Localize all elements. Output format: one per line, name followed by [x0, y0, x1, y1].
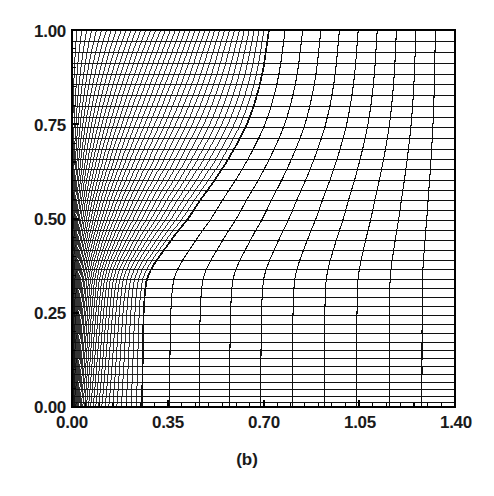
x-tick-label-3: 1.05 [325, 413, 395, 433]
mesh-lines [72, 30, 455, 407]
x-tick-label-0: 0.00 [37, 413, 107, 433]
figure-root: 1.00 0.75 0.50 0.25 0.00 0.00 0.35 0.70 … [0, 0, 494, 496]
y-tick-label-1: 0.75 [2, 116, 66, 136]
y-tick-label-2: 0.50 [2, 210, 66, 230]
y-tick-label-0: 1.00 [2, 22, 66, 42]
x-tick-label-2: 0.70 [229, 413, 299, 433]
x-tick-label-1: 0.35 [133, 413, 203, 433]
figure-caption: (b) [0, 450, 494, 470]
x-tick-label-4: 1.40 [421, 413, 491, 433]
y-tick-label-3: 0.25 [2, 304, 66, 324]
